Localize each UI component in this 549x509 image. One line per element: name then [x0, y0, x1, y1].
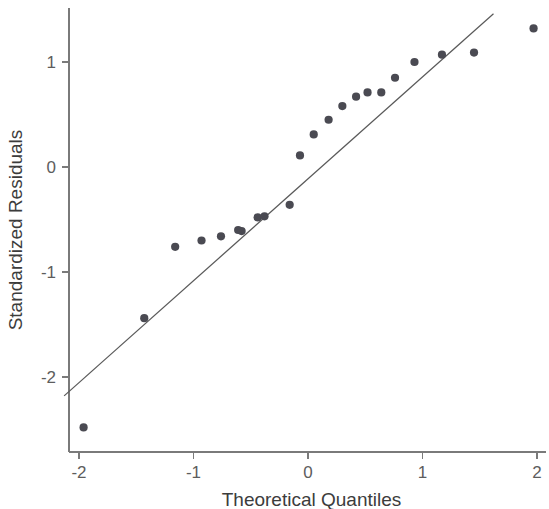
data-point [140, 314, 148, 322]
data-point [470, 48, 478, 56]
qq-plot-canvas: -2-1012-2-101Theoretical QuantilesStanda… [0, 0, 549, 509]
data-point [325, 116, 333, 124]
data-point [254, 213, 262, 221]
x-tick-label: 2 [532, 463, 541, 482]
data-point [197, 236, 205, 244]
qq-reference-line [64, 14, 493, 396]
x-tick-label: 0 [303, 463, 312, 482]
data-point [310, 130, 318, 138]
y-tick-label: 1 [47, 53, 56, 72]
data-point [338, 102, 346, 110]
data-point [529, 24, 537, 32]
data-point [171, 243, 179, 251]
data-point [391, 74, 399, 82]
data-point [79, 423, 87, 431]
data-point [438, 51, 446, 59]
data-point [286, 201, 294, 209]
y-axis-title: Standardized Residuals [5, 130, 26, 331]
x-tick-label: -1 [186, 463, 201, 482]
qq-plot-figure: -2-1012-2-101Theoretical QuantilesStanda… [0, 0, 549, 509]
x-tick-label: 1 [418, 463, 427, 482]
data-point [410, 58, 418, 66]
data-point [363, 88, 371, 96]
data-point [237, 227, 245, 235]
data-point [260, 212, 268, 220]
data-point [296, 151, 304, 159]
axes-group [62, 8, 546, 459]
data-point [217, 232, 225, 240]
x-axis-title: Theoretical Quantiles [222, 489, 402, 509]
axis-labels-group: -2-1012-2-101Theoretical QuantilesStanda… [5, 53, 542, 509]
x-tick-label: -2 [71, 463, 86, 482]
data-points-group [79, 24, 537, 431]
y-tick-label: 0 [47, 158, 56, 177]
y-tick-label: -2 [41, 368, 56, 387]
data-point [352, 93, 360, 101]
y-tick-label: -1 [41, 263, 56, 282]
reference-line-group [64, 14, 493, 396]
data-point [377, 88, 385, 96]
